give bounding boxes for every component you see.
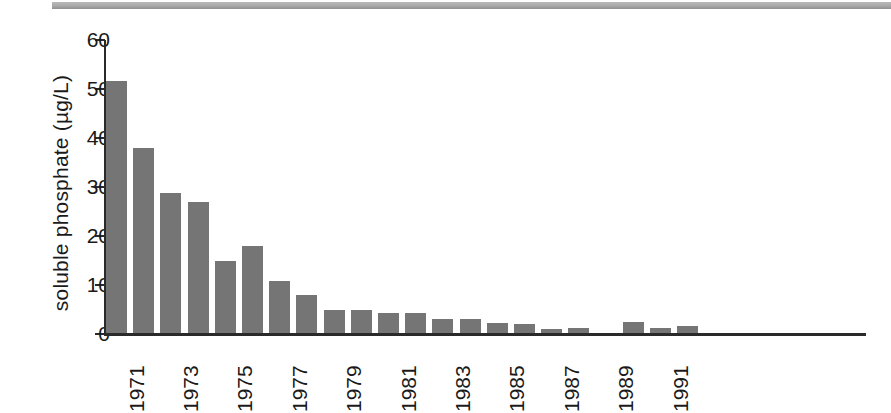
bar [296, 295, 317, 334]
x-axis-tick-label: 1973 [180, 332, 201, 412]
bar [133, 148, 154, 334]
x-axis-tick-label: 1975 [234, 332, 255, 412]
bar [215, 261, 236, 334]
bar [378, 313, 399, 334]
bar [160, 193, 181, 334]
bar [324, 310, 345, 335]
x-axis-tick-label: 1987 [561, 332, 582, 412]
x-axis-tick-label: 1979 [343, 332, 364, 412]
x-axis-tick-label: 1991 [670, 332, 691, 412]
bar [405, 313, 426, 334]
bar [432, 319, 453, 334]
bar-chart-figure: soluble phosphate (µg/L) 0102030405060 1… [0, 0, 891, 413]
bar [269, 281, 290, 334]
x-axis-tick-label: 1977 [289, 332, 310, 412]
bar [188, 202, 209, 334]
bar [351, 310, 372, 335]
x-axis-tick-label: 1989 [615, 332, 636, 412]
x-axis-tick-labels: 1971197319751977197919811983198519871989… [106, 336, 866, 413]
bar [242, 246, 263, 334]
y-axis-ticks: 0102030405060 [0, 0, 110, 413]
x-axis-tick-label: 1983 [452, 332, 473, 412]
x-axis-tick-label: 1985 [506, 332, 527, 412]
plot-area [106, 40, 866, 334]
x-axis-tick-label: 1981 [398, 332, 419, 412]
x-axis-tick-label: 1971 [126, 332, 147, 412]
bar [106, 81, 127, 334]
